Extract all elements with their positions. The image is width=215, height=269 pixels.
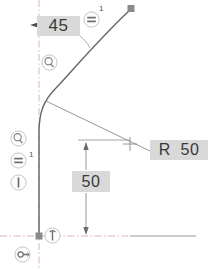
dimension-label-radius[interactable]: R 50 <box>150 140 208 160</box>
equal-icon[interactable] <box>10 152 27 169</box>
angle-leader-curve <box>80 36 90 48</box>
origin-point-square[interactable] <box>36 233 43 240</box>
equal-icon[interactable] <box>83 11 100 28</box>
entity-number-tag-left: 1 <box>29 150 33 159</box>
construction-lines <box>0 0 196 269</box>
tangent-icon[interactable] <box>41 54 58 71</box>
sketch-canvas[interactable] <box>0 0 215 269</box>
anchor-icon[interactable] <box>14 246 31 263</box>
dimension-label-length[interactable]: 50 <box>72 171 110 192</box>
dimension-label-angle[interactable]: 45 <box>37 16 80 36</box>
tangent-icon[interactable] <box>10 130 27 147</box>
dimension-arrow-down <box>83 227 88 235</box>
vertical-icon[interactable] <box>10 174 27 191</box>
endpoint-top-square[interactable] <box>128 5 135 12</box>
radius-leader <box>46 101 152 152</box>
sketch-profile[interactable] <box>39 9 131 236</box>
fix-icon[interactable] <box>44 227 61 244</box>
dimension-arrow-up <box>83 142 88 150</box>
tangent-arc-entity[interactable] <box>39 88 56 132</box>
